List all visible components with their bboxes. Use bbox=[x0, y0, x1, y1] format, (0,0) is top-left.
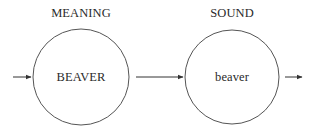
diagram-canvas bbox=[0, 0, 315, 133]
sound-stage-title: SOUND bbox=[210, 6, 254, 20]
sound-node-label: beaver bbox=[215, 70, 249, 84]
meaning-node-label: BEAVER bbox=[57, 70, 106, 84]
meaning-to-sound-diagram: MEANING SOUND BEAVER beaver bbox=[0, 0, 315, 133]
meaning-stage-title: MEANING bbox=[51, 6, 111, 20]
